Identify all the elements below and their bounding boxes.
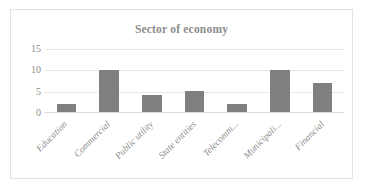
x-axis-line [45, 112, 344, 113]
x-slot: Financial [301, 115, 344, 177]
plot-wrapper: 15 10 5 0 Education Commercial Publi [11, 10, 352, 178]
y-axis: 15 10 5 0 [15, 49, 41, 113]
y-tick-label-15: 15 [15, 44, 41, 54]
y-tick-label-5: 5 [15, 87, 41, 97]
y-tick-label-0: 0 [15, 108, 41, 118]
y-tick-label-10: 10 [15, 65, 41, 75]
chart-container: Sector of economy 15 10 5 0 Educ [10, 9, 353, 179]
bar-municipality[interactable] [270, 70, 290, 112]
bar-commercial[interactable] [99, 70, 119, 112]
x-axis-labels: Education Commercial Public utility Stat… [45, 115, 344, 177]
